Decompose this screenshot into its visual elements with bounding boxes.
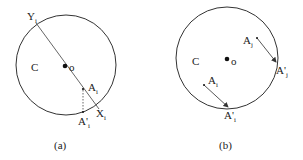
label-y: Yi	[27, 10, 37, 25]
caption-a: (a)	[54, 139, 67, 152]
point-ai	[203, 84, 205, 86]
label-o: o	[69, 61, 75, 73]
label-aj: Aj	[243, 34, 253, 49]
point-aj	[256, 37, 258, 39]
label-x: Xi	[96, 107, 106, 122]
label-ai: Ai	[208, 74, 218, 89]
center-point	[63, 64, 68, 69]
panel-a: Yi C o Ai Xi A'i (a)	[16, 10, 116, 152]
caption-b: (b)	[219, 139, 232, 152]
label-a-prime: A'i	[78, 115, 90, 130]
point-a	[82, 88, 84, 90]
label-a: Ai	[88, 81, 98, 96]
label-c: C	[31, 61, 38, 73]
point-a-prime	[82, 111, 84, 113]
figure: Yi C o Ai Xi A'i (a) Aj A'j C o Ai A'i (…	[0, 0, 303, 160]
label-ai-prime: A'i	[224, 109, 236, 124]
label-aj-prime: A'j	[276, 64, 288, 79]
label-c: C	[192, 55, 199, 67]
diameter-line	[36, 23, 99, 109]
center-point	[225, 57, 230, 62]
panel-b: Aj A'j C o Ai A'i (b)	[176, 7, 288, 152]
label-o: o	[231, 55, 237, 67]
arrow-aj	[257, 38, 276, 62]
